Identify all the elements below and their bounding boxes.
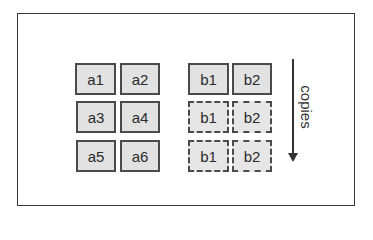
cell-label: a5 [88,148,105,165]
cell-label: a6 [132,148,149,165]
cell-b1-copy-1: b1 [188,101,229,133]
cell-a5: a5 [76,140,116,172]
cell-a3: a3 [76,101,116,133]
cell-label: b1 [200,71,217,88]
copies-label: copies [298,85,315,128]
cell-label: b2 [244,71,261,88]
cell-a6: a6 [120,140,160,172]
cell-label: b2 [244,109,261,126]
cell-b2-original: b2 [232,63,272,95]
cell-a1: a1 [75,63,116,95]
cell-b1-original: b1 [188,63,229,95]
cell-a4: a4 [120,101,160,133]
cell-label: b1 [200,109,217,126]
cell-a2: a2 [120,63,160,95]
cell-label: a3 [88,109,105,126]
cell-label: a1 [87,71,104,88]
down-arrow-icon [292,59,294,157]
cell-b1-copy-2: b1 [188,140,229,172]
cell-b2-copy-1: b2 [232,101,272,133]
cell-b2-copy-2: b2 [232,140,272,172]
cell-label: b2 [244,148,261,165]
arrow-head-icon [288,153,298,162]
cell-label: a4 [132,109,149,126]
cell-label: a2 [132,71,149,88]
cell-label: b1 [200,148,217,165]
